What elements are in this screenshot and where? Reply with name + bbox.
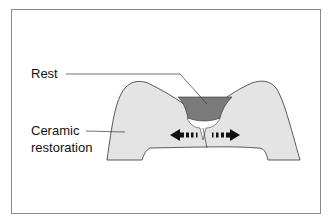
diagram-canvas <box>0 0 331 224</box>
rest-label: Rest <box>31 66 58 81</box>
ceramic-label-line1: Ceramic <box>31 123 79 138</box>
ceramic-label-line2: restoration <box>31 140 92 155</box>
